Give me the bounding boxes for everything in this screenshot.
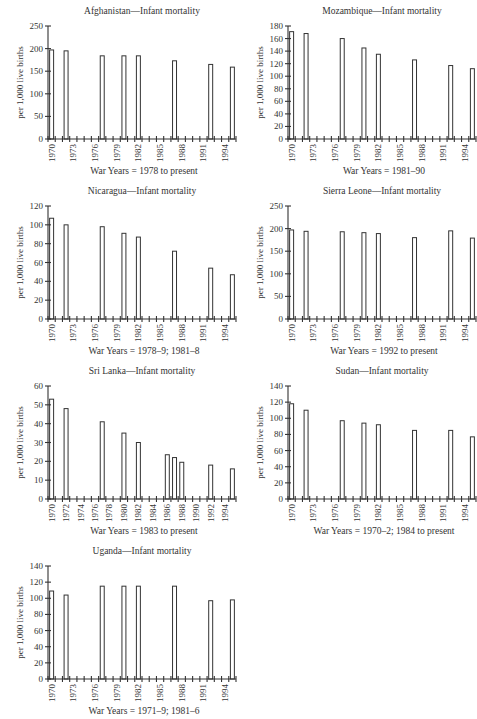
x-tick-label: 1973: [68, 324, 78, 343]
y-tick-label: 200: [270, 224, 284, 234]
x-tick-label: 1982: [133, 144, 143, 162]
bar-1987: [413, 60, 417, 139]
bar-1972: [64, 595, 68, 679]
bar-1970: [50, 399, 54, 499]
chart-mozambique: Mozambique—Infant mortalityper 1,000 liv…: [240, 0, 477, 178]
y-tick-label: 150: [30, 66, 44, 76]
chart-sierra-leone: Sierra Leone—Infant mortalityper 1,000 l…: [240, 180, 477, 358]
bar-1977: [100, 227, 104, 319]
chart-afghanistan: Afghanistan—Infant mortalityper 1,000 li…: [0, 0, 238, 178]
bar-1995: [230, 275, 234, 319]
bar-1987: [413, 238, 417, 319]
x-tick-label: 1990: [191, 504, 201, 523]
x-tick-label: 1973: [308, 504, 318, 523]
war-years-caption: War Years = 1983 to present: [90, 526, 198, 536]
x-tick-label: 1991: [198, 144, 208, 162]
x-tick-label: 1992: [206, 504, 216, 522]
x-tick-label: 1979: [112, 144, 122, 163]
y-axis-label: per 1,000 live births: [15, 226, 25, 299]
chart-nicaragua: Nicaragua—Infant mortalityper 1,000 live…: [0, 180, 238, 358]
y-tick-label: 0: [279, 134, 284, 144]
y-tick-label: 120: [30, 201, 44, 211]
y-tick-label: 0: [279, 494, 284, 504]
y-axis-label: per 1,000 live births: [15, 586, 25, 659]
y-tick-label: 10: [34, 475, 44, 485]
x-tick-label: 1973: [68, 144, 78, 163]
y-tick-label: 120: [30, 577, 44, 587]
axes: [48, 26, 236, 139]
y-tick-label: 180: [270, 21, 284, 31]
x-tick-label: 1988: [177, 144, 187, 163]
bar-1970: [290, 230, 294, 319]
bar-1987: [173, 251, 177, 319]
x-tick-label: 1982: [373, 504, 383, 522]
y-tick-label: 100: [270, 71, 284, 81]
x-tick-label: 1988: [417, 324, 427, 343]
bar-1992: [209, 268, 213, 319]
x-tick-label: 1979: [352, 324, 362, 343]
x-tick-label: 1985: [155, 144, 165, 163]
x-tick-label: 1970: [47, 504, 57, 523]
x-tick-label: 1982: [133, 324, 143, 342]
y-tick-label: 100: [30, 593, 44, 603]
bar-1995: [230, 469, 234, 499]
bar-1977: [100, 586, 104, 679]
x-tick-label: 1985: [395, 504, 405, 523]
y-tick-label: 100: [30, 89, 44, 99]
bar-1982: [136, 443, 140, 500]
x-tick-label: 1991: [438, 504, 448, 522]
y-tick-label: 140: [30, 561, 44, 571]
bar-1995: [470, 69, 474, 139]
bar-1977: [340, 232, 344, 319]
axes: [48, 386, 236, 499]
y-tick-label: 60: [34, 258, 44, 268]
chart-sudan: Sudan—Infant mortalityper 1,000 live bir…: [240, 360, 477, 538]
bar-1995: [470, 437, 474, 499]
bar-1970: [50, 591, 54, 679]
x-tick-label: 1991: [438, 144, 448, 162]
x-tick-label: 1994: [460, 324, 470, 343]
x-tick-label: 1973: [68, 684, 78, 703]
bar-1970: [50, 50, 54, 139]
y-tick-label: 40: [274, 109, 284, 119]
x-tick-label: 1970: [47, 324, 57, 343]
y-tick-label: 80: [34, 609, 44, 619]
y-tick-label: 20: [34, 456, 44, 466]
war-years-caption: War Years = 1971–9; 1981–6: [89, 706, 200, 716]
y-tick-label: 140: [270, 381, 284, 391]
bar-1995: [230, 67, 234, 139]
chart-svg: Nicaragua—Infant mortalityper 1,000 live…: [0, 180, 238, 358]
bar-1982: [136, 56, 140, 139]
x-tick-label: 1976: [330, 504, 340, 523]
x-tick-label: 1979: [352, 144, 362, 163]
bar-1982: [376, 425, 380, 499]
bar-1980: [122, 56, 126, 139]
x-tick-label: 1970: [287, 324, 297, 343]
y-tick-label: 40: [34, 419, 44, 429]
bar-1977: [100, 422, 104, 499]
chart-sri-lanka: Sri Lanka—Infant mortalityper 1,000 live…: [0, 360, 238, 538]
war-years-caption: War Years = 1970–2; 1984 to present: [313, 526, 454, 536]
bar-1992: [449, 66, 453, 139]
bar-1992: [449, 430, 453, 499]
y-tick-label: 100: [270, 269, 284, 279]
x-tick-label: 1982: [133, 504, 143, 522]
y-tick-label: 0: [39, 674, 44, 684]
x-tick-label: 1985: [395, 324, 405, 343]
bar-1972: [64, 409, 68, 499]
y-tick-label: 20: [274, 121, 284, 131]
chart-svg: Mozambique—Infant mortalityper 1,000 liv…: [240, 0, 477, 178]
bar-1987: [173, 61, 177, 139]
chart-title: Mozambique—Infant mortality: [322, 6, 442, 16]
y-tick-label: 80: [34, 239, 44, 249]
bar-1987: [173, 586, 177, 679]
x-tick-label: 1984: [148, 504, 158, 523]
y-axis-label: per 1,000 live births: [15, 46, 25, 119]
y-axis-label: per 1,000 live births: [255, 226, 265, 299]
bar-1980: [122, 233, 126, 319]
bar-1986: [165, 455, 169, 499]
y-tick-label: 30: [34, 438, 44, 448]
bar-1982: [376, 234, 380, 319]
y-tick-label: 100: [30, 220, 44, 230]
y-tick-label: 20: [34, 295, 44, 305]
